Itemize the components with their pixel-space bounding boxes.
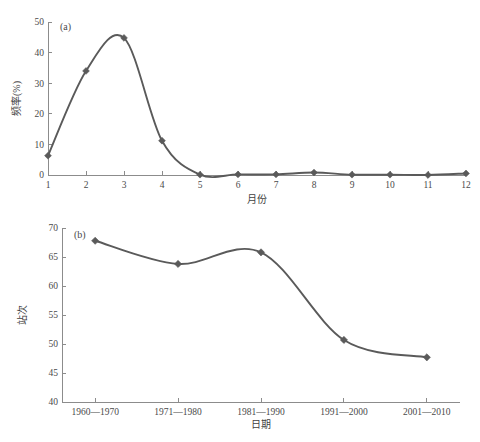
x-tick-label: 2001—2010 — [403, 407, 451, 417]
data-series-line — [95, 241, 427, 358]
y-tick-label: 0 — [39, 170, 44, 180]
x-tick-label: 1960—1970 — [71, 407, 119, 417]
x-tick-label: 10 — [385, 180, 395, 190]
y-axis-title: 站次 — [16, 305, 28, 325]
x-tick-label: 1991—2000 — [320, 407, 368, 417]
x-tick-label: 8 — [312, 180, 317, 190]
y-tick-label: 10 — [35, 140, 45, 150]
data-point-marker — [425, 172, 432, 179]
x-tick-label: 5 — [198, 180, 203, 190]
x-tick-label: 4 — [160, 180, 165, 190]
data-point-marker — [92, 237, 99, 244]
data-point-marker — [174, 260, 181, 267]
x-tick-label: 3 — [122, 180, 127, 190]
chart-panel-a: 01020304050123456789101112月份频率(%)(a) — [0, 0, 480, 215]
y-tick-label: 40 — [49, 397, 59, 407]
data-point-marker — [387, 171, 394, 178]
data-series-line — [48, 35, 466, 177]
data-point-marker — [235, 171, 242, 178]
y-tick-label: 40 — [35, 48, 45, 58]
data-point-marker — [197, 171, 204, 178]
data-point-marker — [257, 249, 264, 256]
x-tick-label: 7 — [274, 180, 279, 190]
panel-label: (a) — [60, 21, 71, 33]
y-tick-label: 70 — [49, 223, 59, 233]
data-point-marker — [349, 171, 356, 178]
y-tick-label: 45 — [49, 368, 59, 378]
x-axis-title: 日期 — [251, 419, 271, 430]
x-tick-label: 1971—1980 — [154, 407, 202, 417]
x-tick-label: 2 — [84, 180, 89, 190]
data-point-marker — [463, 170, 470, 177]
line-chart-frequency-by-month: 01020304050123456789101112月份频率(%)(a) — [0, 0, 480, 215]
x-tick-label: 6 — [236, 180, 241, 190]
data-point-marker — [423, 354, 430, 361]
y-tick-label: 50 — [35, 17, 45, 27]
y-tick-label: 20 — [35, 109, 45, 119]
x-tick-label: 1981—1990 — [237, 407, 285, 417]
x-tick-label: 9 — [350, 180, 355, 190]
line-chart-stations-by-decade: 404550556065701960—19701971—19801981—199… — [0, 215, 480, 442]
panel-label: (b) — [74, 229, 86, 241]
y-axis-title: 频率(%) — [10, 81, 23, 116]
data-point-marker — [273, 171, 280, 178]
y-tick-label: 55 — [49, 310, 59, 320]
y-tick-label: 65 — [49, 252, 59, 262]
x-tick-label: 1 — [46, 180, 51, 190]
data-point-marker — [45, 152, 52, 159]
chart-panel-b: 404550556065701960—19701971—19801981—199… — [0, 215, 480, 442]
x-tick-label: 11 — [423, 180, 432, 190]
x-axis-title: 月份 — [247, 194, 267, 205]
y-tick-label: 50 — [49, 339, 59, 349]
y-tick-label: 30 — [35, 79, 45, 89]
y-tick-label: 60 — [49, 281, 59, 291]
x-tick-label: 12 — [461, 180, 471, 190]
